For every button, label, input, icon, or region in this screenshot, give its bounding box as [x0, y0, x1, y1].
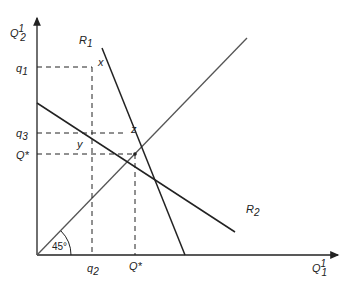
point-y-label: y [76, 138, 84, 150]
equilibrium-point [133, 152, 137, 156]
point-x-label: x [97, 56, 104, 68]
q1-tick-label: q1 [16, 62, 28, 77]
r2-label: R2 [246, 203, 260, 218]
qstar-x-tick-label: Q* [129, 260, 143, 272]
reaction-diagram: Q12 Q11 R1 R2 x y z q1 q3 Q* q2 Q* 45° [0, 0, 357, 290]
q2-tick-label: q2 [87, 262, 99, 277]
y-axis-label: Q12 [10, 23, 26, 43]
qstar-y-tick-label: Q* [16, 149, 30, 161]
q3-tick-label: q3 [16, 127, 28, 142]
angle-label: 45° [52, 241, 67, 252]
r1-line [102, 48, 185, 255]
point-z-label: z [130, 123, 137, 135]
x-axis-label: Q11 [312, 258, 327, 278]
r1-label: R1 [79, 34, 93, 49]
